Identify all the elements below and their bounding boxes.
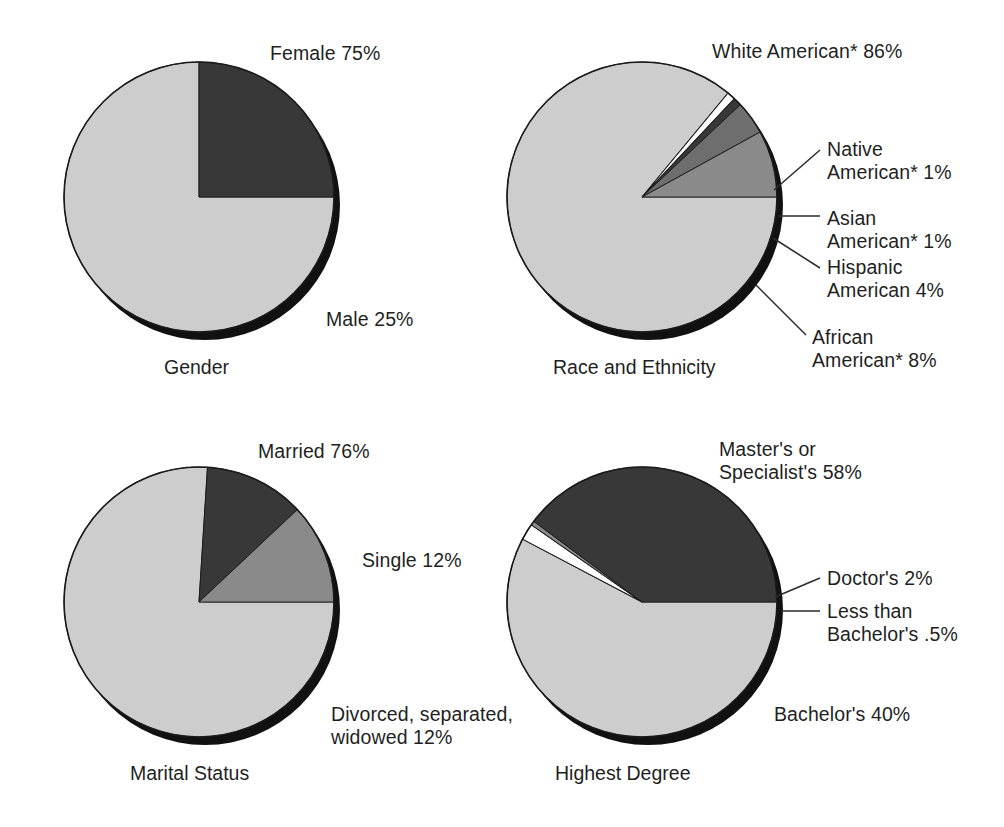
label-single: Single 12% xyxy=(362,549,462,572)
leader-hispanic-american xyxy=(773,238,820,268)
label-asian-american: Asian American* 1% xyxy=(827,207,952,253)
label-doctors: Doctor's 2% xyxy=(827,567,933,590)
label-female: Female 75% xyxy=(270,42,380,65)
label-bachelors: Bachelor's 40% xyxy=(774,703,910,726)
leader-doctors xyxy=(775,578,820,597)
label-less-than-bachelors: Less than Bachelor's .5% xyxy=(827,600,958,646)
label-divorced: Divorced, separated, widowed 12% xyxy=(331,703,513,749)
pie-chart-figure: Female 75%Male 25%GenderWhite American* … xyxy=(0,0,1004,827)
pie-gender xyxy=(64,62,340,340)
slice-male xyxy=(199,62,334,197)
label-native-american: Native American* 1% xyxy=(827,138,952,184)
leader-african-american xyxy=(756,285,806,335)
caption-marital-status: Marital Status xyxy=(130,762,249,785)
label-male: Male 25% xyxy=(326,308,414,331)
label-african-american: African American* 8% xyxy=(812,326,937,372)
label-hispanic-american: Hispanic American 4% xyxy=(827,256,944,302)
pie-marital-status xyxy=(64,467,340,745)
label-married: Married 76% xyxy=(258,440,370,463)
caption-gender: Gender xyxy=(164,356,229,379)
leader-native-american xyxy=(774,150,820,190)
label-white-american: White American* 86% xyxy=(712,40,902,63)
caption-race-and-ethnicity: Race and Ethnicity xyxy=(553,356,716,379)
pie-race-and-ethnicity xyxy=(507,62,783,340)
caption-highest-degree: Highest Degree xyxy=(555,762,691,785)
label-masters: Master's or Specialist's 58% xyxy=(719,438,862,484)
pie-highest-degree xyxy=(507,467,783,745)
